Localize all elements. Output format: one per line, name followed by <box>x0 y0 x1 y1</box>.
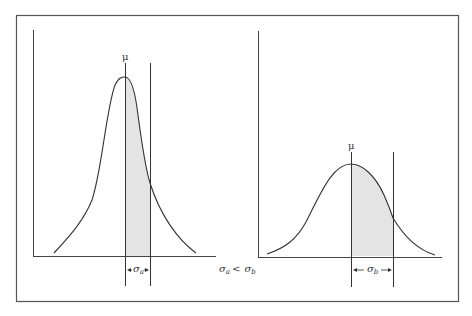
right-arrow-icon <box>145 268 149 272</box>
left-panel: μ σa <box>33 30 216 286</box>
right-arrow-icon <box>388 268 392 272</box>
left-sigma-dimension: σa <box>127 263 149 276</box>
left-mean-label: μ <box>122 51 129 62</box>
right-panel: μ σb <box>258 31 442 287</box>
normal-distribution-figure: μ σa σa<σb μ σb <box>0 0 472 316</box>
right-sigma-dimension: σb <box>353 263 392 276</box>
comparison-label: σa<σb <box>219 263 256 276</box>
right-shaded-area <box>351 164 393 256</box>
figure-frame <box>17 16 459 302</box>
right-mean-label: μ <box>348 140 355 151</box>
right-sigma-label: σb <box>367 263 379 276</box>
left-sigma-label: σa <box>133 263 144 276</box>
